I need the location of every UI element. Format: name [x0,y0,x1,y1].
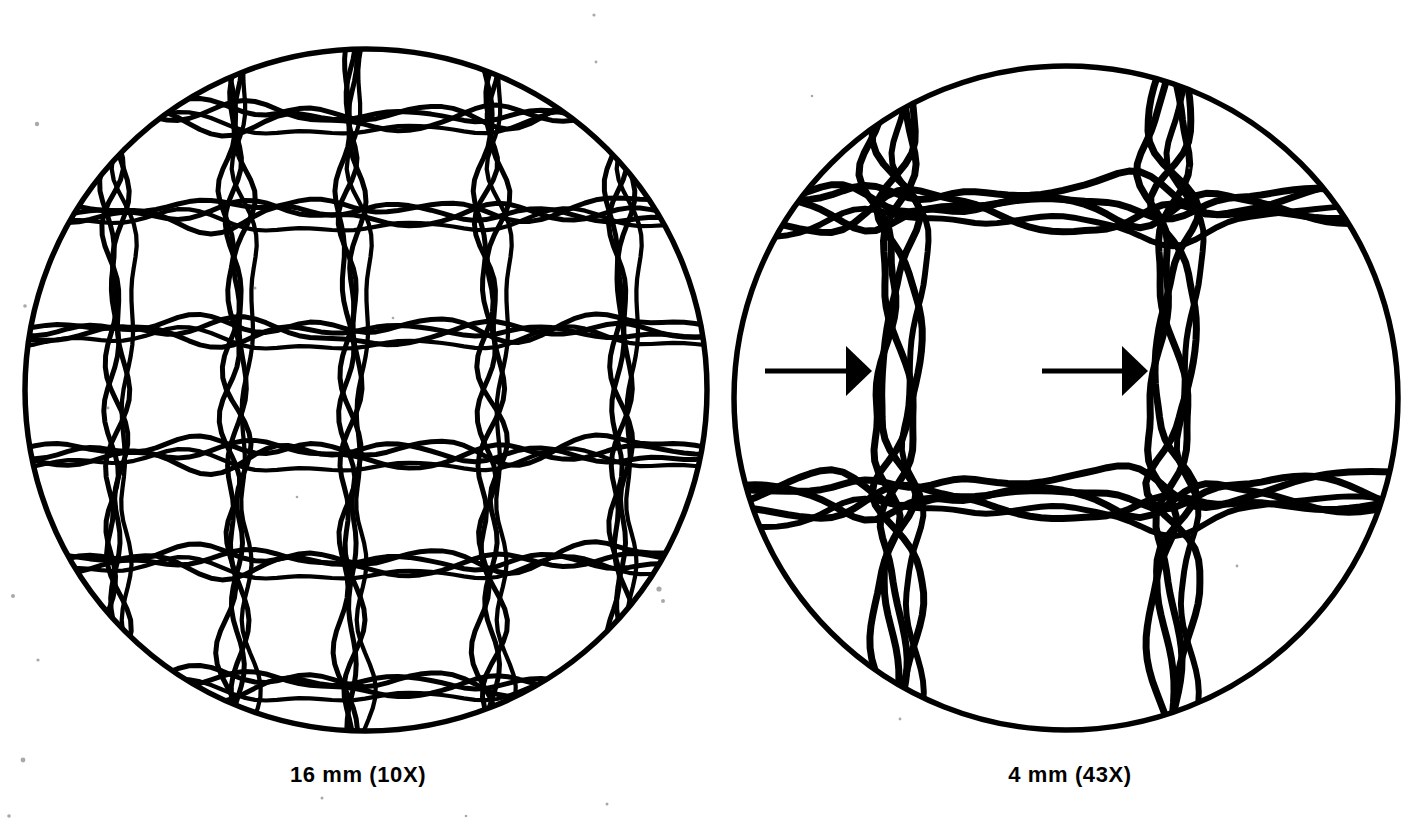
scan-speck [321,797,324,800]
scan-speck [7,814,11,818]
scan-speck [595,61,598,64]
scan-speck [606,803,609,806]
scan-speck [35,122,39,126]
scan-speck [296,496,299,499]
scan-speck [107,407,110,410]
caption-left-panel: 16 mm (10X) [0,762,716,788]
scan-speck [392,317,395,320]
scan-speck [811,95,814,98]
gauze-microscopy-figure [0,0,1426,834]
scan-speck [11,594,15,598]
scan-speck [465,815,468,818]
scan-speck [899,718,902,721]
caption-right-panel: 4 mm (43X) [712,762,1426,788]
scan-speck [254,287,257,290]
scan-speck [661,599,665,603]
scan-speck [23,304,27,308]
figure-background [0,0,1426,834]
scan-speck [36,658,39,661]
scan-speck [656,586,661,591]
scan-speck [1236,565,1239,568]
scan-speck [592,13,595,16]
scan-speck [1188,167,1191,170]
